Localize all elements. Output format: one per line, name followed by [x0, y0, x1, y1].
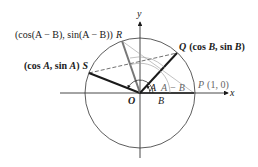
origin-label: O	[128, 95, 135, 106]
point-S-label: (cos A, sin A)S	[24, 60, 89, 72]
angle-arc-A-minus-B-2	[130, 57, 165, 68]
point-R-label: (cos(A − B), sin(A − B))R	[15, 29, 122, 41]
angle-label-A-minus-B: A − B	[160, 82, 185, 93]
y-axis-label: y	[136, 8, 142, 19]
radius-OR	[122, 41, 140, 93]
angle-label-B: B	[158, 95, 164, 106]
angle-label-A: A	[149, 82, 157, 93]
x-axis-label: x	[229, 87, 235, 98]
radius-OS	[89, 73, 140, 93]
point-P-label: P(1, 0)	[197, 79, 229, 91]
point-Q-label: Q(cos B, sin B)	[179, 41, 245, 53]
unit-circle-diagram: y x O B A A − B P(1, 0) Q(cos B, sin B) …	[0, 0, 258, 167]
